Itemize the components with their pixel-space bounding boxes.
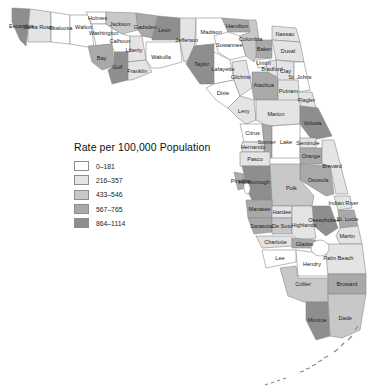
county-label: St. Lucie	[337, 216, 359, 222]
county-label: Washington	[89, 30, 118, 36]
county-label: Bay	[97, 55, 107, 61]
county-label: Manatee	[249, 206, 271, 212]
county-label: Calhoun	[110, 38, 131, 44]
legend-row-0: 0–181	[74, 159, 210, 173]
county-label: Collier	[295, 281, 311, 287]
county-label: Dade	[339, 315, 352, 321]
county-label: Hardee	[273, 209, 291, 215]
legend-row-1: 216–357	[74, 173, 210, 187]
county-label: Charlotte	[264, 239, 287, 245]
county-label: Jackson	[110, 21, 131, 27]
county-label: Pasco	[247, 156, 263, 162]
legend-swatch-2	[74, 190, 89, 200]
county-label: Indian River	[329, 200, 359, 206]
county-label: Taylor	[194, 61, 209, 67]
county-label: Jefferson	[175, 37, 198, 43]
legend-row-4: 864–1114	[74, 216, 210, 230]
legend-swatch-4	[74, 218, 89, 228]
county-label: Suwannee	[216, 42, 242, 48]
county-label: Wakulla	[151, 54, 172, 60]
county-label: Gadsden	[134, 24, 157, 30]
county-label: Nassau	[276, 31, 295, 37]
county-label: Hamilton	[226, 23, 248, 29]
county-label: Hendry	[303, 261, 321, 267]
county-label: Glades	[296, 241, 314, 247]
county-label: St. Johns	[288, 74, 312, 80]
county-label: Duval	[281, 48, 295, 54]
county-label: Volusia	[303, 120, 322, 126]
legend-label-3: 567–765	[96, 206, 122, 213]
county-label: Osceola	[308, 177, 329, 183]
florida-keys-lower	[265, 378, 286, 385]
county-label: Dixie	[217, 90, 229, 96]
county-label: Lee	[275, 255, 284, 261]
county-label: Madison	[201, 29, 222, 35]
county-label: Seminole	[296, 140, 319, 146]
county-label: Franklin	[127, 68, 147, 74]
county-label: Levy	[238, 108, 250, 114]
county-label: Okaloosa	[49, 25, 74, 31]
county-label: Hernando	[241, 144, 266, 150]
county-label: Monroe	[308, 317, 327, 323]
county-label: Putnam	[279, 88, 299, 94]
county-label: Alachua	[254, 82, 275, 88]
county-label: Lake	[280, 139, 292, 145]
legend-swatch-1	[74, 175, 89, 185]
legend-label-1: 216–357	[96, 177, 122, 184]
county-label: Sarasota	[250, 223, 273, 229]
county-label: Polk	[286, 185, 297, 191]
map-legend: Rate per 100,000 Population 0–181 216–35…	[74, 141, 210, 230]
county-label: Clay	[280, 68, 291, 74]
legend-swatch-0	[74, 161, 89, 171]
county-label: Holmes	[88, 15, 107, 21]
county-label: Gilchrist	[231, 74, 252, 80]
legend-swatch-3	[74, 204, 89, 214]
legend-label-2: 433–546	[96, 191, 122, 198]
county-label: Leon	[158, 27, 170, 33]
county-label: Highlands	[292, 222, 317, 228]
county-label: Martin	[339, 233, 355, 239]
county-label: Gulf	[112, 64, 123, 70]
lake-okeechobee	[311, 240, 329, 256]
legend-title: Rate per 100,000 Population	[74, 141, 210, 153]
county-label: Lafayette	[211, 66, 234, 72]
legend-label-0: 0–181	[96, 163, 115, 170]
county-label: Pinellas	[231, 178, 251, 184]
county-label: Flagler	[298, 97, 315, 103]
county-label: Palm Beach	[323, 255, 353, 261]
county-label: Baker	[257, 46, 272, 52]
county-label: Liberty	[126, 47, 143, 53]
legend-label-4: 864–1114	[96, 220, 125, 227]
county-label: Orange	[302, 153, 321, 159]
legend-row-2: 433–546	[74, 188, 210, 202]
legend-row-3: 567–765	[74, 202, 210, 216]
county-label: Citrus	[245, 130, 260, 136]
county-label: Brevard	[322, 163, 342, 169]
county-label: Marion	[267, 111, 284, 117]
county-label: Broward	[337, 281, 358, 287]
county-label: Columbia	[239, 36, 264, 42]
county-label: De Soto	[272, 223, 292, 229]
